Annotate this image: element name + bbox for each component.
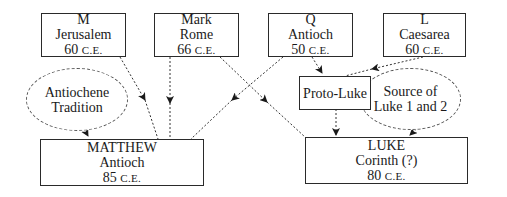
source-l-box: L Caesarea 60 C.E. [383, 13, 466, 57]
source-m-era: C.E. [82, 44, 103, 56]
antiochene-line2: Tradition [51, 100, 103, 115]
luke-place: Corinth (?) [356, 153, 418, 168]
source-m-name: M [77, 12, 89, 27]
luke-era: C.E. [385, 170, 406, 182]
source-q-place: Antioch [288, 27, 333, 42]
source-mark-place: Rome [180, 27, 213, 42]
source-mark-era: C.E. [195, 44, 216, 56]
proto-luke-label: Proto-Luke [303, 86, 367, 101]
matthew-place: Antioch [99, 155, 144, 170]
source-m-year: 60 [64, 42, 78, 57]
luke-source-line2: Luke 1 and 2 [374, 99, 447, 114]
matthew-name: MATTHEW [87, 140, 157, 155]
antiochene-tradition-ellipse: Antiochene Tradition [26, 68, 128, 131]
proto-luke-box: Proto-Luke [299, 76, 371, 110]
luke-name: LUKE [368, 138, 405, 153]
edge-mark-luke [220, 57, 267, 102]
source-mark-box: Mark Rome 66 C.E. [154, 13, 239, 57]
source-l-year: 60 [405, 42, 419, 57]
source-q-box: Q Antioch 50 C.E. [268, 13, 353, 57]
source-m-place: Jerusalem [56, 27, 112, 42]
luke-box: LUKE Corinth (?) 80 C.E. [305, 137, 468, 184]
source-q-year: 50 [291, 42, 305, 57]
source-mark-name: Mark [181, 12, 211, 27]
source-l-name: L [420, 12, 429, 27]
matthew-era: C.E. [120, 172, 141, 184]
source-q-era: C.E. [309, 44, 330, 56]
matthew-box: MATTHEW Antioch 85 C.E. [40, 139, 204, 186]
edge-q-protoluke [312, 57, 322, 73]
matthew-year: 85 [103, 170, 117, 185]
antiochene-line1: Antiochene [45, 85, 110, 100]
source-q-name: Q [305, 12, 315, 27]
source-l-place: Caesarea [399, 27, 450, 42]
source-m-box: M Jerusalem 60 C.E. [41, 13, 126, 57]
source-l-era: C.E. [423, 44, 444, 56]
luke-year: 80 [367, 168, 381, 183]
luke-source-line1: Source of [383, 84, 437, 99]
source-mark-year: 66 [177, 42, 191, 57]
luke-source-ellipse: Source of Luke 1 and 2 [360, 68, 461, 130]
